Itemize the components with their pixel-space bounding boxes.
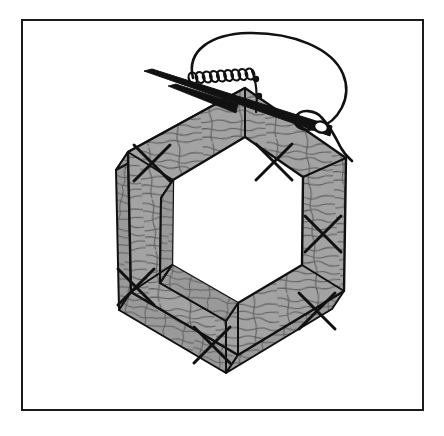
pierce-point-upper — [253, 76, 259, 82]
patent-figure-illustration — [0, 0, 444, 436]
pierce-point-lower — [256, 93, 262, 99]
figure-page — [0, 0, 444, 436]
